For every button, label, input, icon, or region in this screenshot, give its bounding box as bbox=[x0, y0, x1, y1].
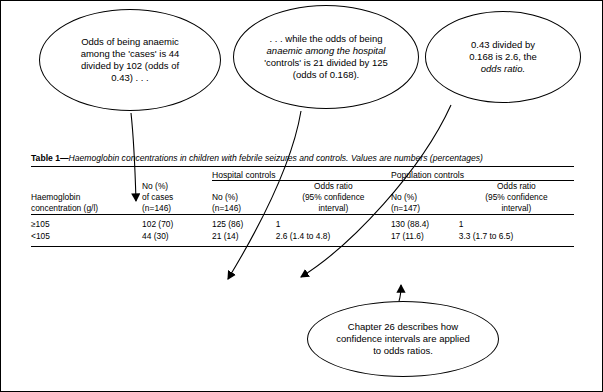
col-header-hospital-or-l3: interval) bbox=[318, 203, 348, 213]
col-header-population-no: No (%) (n=147) bbox=[391, 181, 459, 215]
table-row: ≥105 102 (70) 125 (86) 1 130 (88.4) 1 bbox=[31, 218, 574, 230]
col-header-population-or-l3: interval) bbox=[501, 203, 531, 213]
row-0-population-or: 1 bbox=[459, 218, 574, 230]
callout-cases-line1: Odds of being anaemic bbox=[81, 36, 180, 48]
callout-hospital-line2-text: anaemic among the hospital bbox=[267, 45, 386, 56]
callout-ratio-line2: 0.168 is 2.6, the bbox=[469, 51, 537, 63]
row-0-hospital-or: 1 bbox=[276, 218, 391, 230]
column-header-row: Haemoglobin concentration (g/l) No (%) o… bbox=[31, 181, 574, 215]
group-header-population: Population controls bbox=[391, 170, 574, 181]
col-header-haemoglobin-l1: Haemoglobin bbox=[31, 192, 80, 202]
table-caption-label: Table 1 bbox=[31, 153, 60, 163]
group-header-row: Hospital controls Population controls bbox=[31, 170, 574, 181]
col-header-hospital-or: Odds ratio (95% confidence interval) bbox=[276, 181, 391, 215]
table-container: Table 1—Haemoglobin concentrations in ch… bbox=[31, 153, 574, 250]
callout-hospital-line4: (odds of 0.168). bbox=[264, 69, 388, 81]
callout-chapter-line1: Chapter 26 describes how bbox=[336, 321, 470, 333]
col-header-hospital-no: No (%) (n=146) bbox=[212, 181, 276, 215]
data-table: Hospital controls Population controls Ha… bbox=[31, 166, 574, 250]
col-header-population-no-l1: No (%) bbox=[391, 192, 417, 202]
figure-page: Odds of being anaemic among the 'cases' … bbox=[0, 0, 603, 392]
col-header-haemoglobin-l2: concentration (g/l) bbox=[31, 203, 98, 213]
row-0-label: ≥105 bbox=[31, 218, 142, 230]
callout-chapter-reference: Chapter 26 describes how confidence inte… bbox=[307, 301, 499, 377]
col-header-population-or: Odds ratio (95% confidence interval) bbox=[459, 181, 574, 215]
callout-hospital-odds: . . . while the odds of being anaemic am… bbox=[233, 5, 419, 109]
row-1-hospital-or: 2.6 (1.4 to 4.8) bbox=[276, 230, 391, 242]
callout-hospital-line1: . . . while the odds of being bbox=[264, 33, 388, 45]
callout-cases-line3: divided by 102 (odds of bbox=[81, 60, 180, 72]
col-header-cases-l2: of cases bbox=[142, 192, 173, 202]
table-caption-dash: — bbox=[60, 153, 69, 163]
group-header-blank-1 bbox=[31, 170, 142, 181]
row-1-hospital-no: 21 (14) bbox=[212, 230, 276, 242]
table-caption-text: Haemoglobin concentrations in children w… bbox=[69, 153, 483, 163]
callout-hospital-line3: 'controls' is 21 divided by 125 bbox=[264, 57, 388, 69]
callout-hospital-line2: anaemic among the hospital bbox=[264, 45, 388, 57]
callout-chapter-line3: to odds ratios. bbox=[336, 345, 470, 357]
col-header-hospital-no-l2: (n=146) bbox=[212, 203, 241, 213]
col-header-population-no-l2: (n=147) bbox=[391, 203, 420, 213]
col-header-hospital-or-l1: Odds ratio bbox=[314, 181, 353, 191]
callout-ratio-line3-text: odds ratio. bbox=[481, 63, 525, 74]
arrow-chapter bbox=[399, 285, 401, 301]
col-header-cases-l1: No (%) bbox=[142, 181, 168, 191]
row-0-cases: 102 (70) bbox=[142, 218, 212, 230]
callout-ratio-line1: 0.43 divided by bbox=[469, 39, 537, 51]
col-header-hospital-no-l1: No (%) bbox=[212, 192, 238, 202]
col-header-cases-l3: (n=146) bbox=[142, 203, 171, 213]
row-0-hospital-no: 125 (86) bbox=[212, 218, 276, 230]
col-header-hospital-or-l2: (95% confidence bbox=[302, 192, 364, 202]
table-caption: Table 1—Haemoglobin concentrations in ch… bbox=[31, 153, 574, 163]
callout-ratio-line3: odds ratio. bbox=[469, 63, 537, 75]
callout-chapter-line2: confidence intervals are applied bbox=[336, 333, 470, 345]
row-1-population-or: 3.3 (1.7 to 6.5) bbox=[459, 230, 574, 242]
group-header-blank-2 bbox=[142, 170, 212, 181]
table-row: <105 44 (30) 21 (14) 2.6 (1.4 to 4.8) 17… bbox=[31, 230, 574, 242]
callout-cases-line2: among the 'cases' is 44 bbox=[81, 48, 180, 60]
row-0-population-no: 130 (88.4) bbox=[391, 218, 459, 230]
callout-cases-line4: 0.43) . . . bbox=[81, 72, 180, 84]
row-1-population-no: 17 (11.6) bbox=[391, 230, 459, 242]
col-header-cases: No (%) of cases (n=146) bbox=[142, 181, 212, 215]
col-header-population-or-l1: Odds ratio bbox=[497, 181, 536, 191]
group-header-hospital: Hospital controls bbox=[212, 170, 391, 181]
callout-odds-ratio: 0.43 divided by 0.168 is 2.6, the odds r… bbox=[425, 11, 581, 103]
col-header-haemoglobin: Haemoglobin concentration (g/l) bbox=[31, 181, 142, 215]
col-header-population-or-l2: (95% confidence bbox=[485, 192, 547, 202]
table-rule-bottom bbox=[31, 247, 574, 251]
row-1-cases: 44 (30) bbox=[142, 230, 212, 242]
row-1-label: <105 bbox=[31, 230, 142, 242]
callout-cases-odds: Odds of being anaemic among the 'cases' … bbox=[39, 9, 221, 111]
